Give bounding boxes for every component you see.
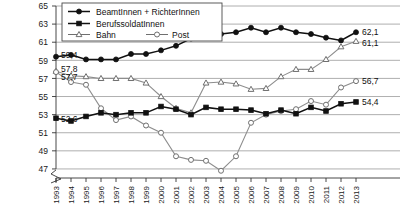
data-point-marker <box>189 112 194 117</box>
x-axis-tick-label: 1993 <box>52 185 61 203</box>
series-end-value-label: 61,1 <box>362 38 379 48</box>
series-end-value-label: 56,7 <box>362 76 379 86</box>
x-axis-tick-label: 2001 <box>172 185 181 203</box>
y-axis-tick-labels: 47495153555759616365 <box>39 1 49 174</box>
data-point-marker <box>99 57 104 62</box>
legend-item-label: Post <box>172 30 190 40</box>
data-point-marker <box>174 43 179 48</box>
x-axis-tick-label: 2005 <box>232 185 241 203</box>
data-point-marker <box>339 85 344 90</box>
data-point-marker <box>324 102 329 107</box>
data-point-marker <box>77 21 82 26</box>
series-start-value-label: 52,6 <box>61 114 78 124</box>
y-axis-tick-label: 65 <box>39 1 49 11</box>
x-axis-tick-labels: 1993199419951996199719981999200020012002… <box>52 185 361 203</box>
data-point-marker <box>234 30 239 35</box>
data-point-marker <box>204 158 209 163</box>
line-chart-svg: 47495153555759616365 1993199419951996199… <box>0 0 405 217</box>
data-point-marker <box>294 30 299 35</box>
data-point-marker <box>324 35 329 40</box>
y-axis-tick-label: 59 <box>39 56 49 66</box>
series-start-value-label: 59,4 <box>61 50 78 60</box>
x-axis-tick-label: 2004 <box>217 185 226 203</box>
data-point-marker <box>218 79 224 84</box>
x-axis-tick-label: 2002 <box>187 185 196 203</box>
data-point-marker <box>84 57 89 62</box>
x-axis-tick-label: 2003 <box>202 185 211 203</box>
x-axis-tick-label: 1998 <box>127 185 136 203</box>
x-axis-tick-label: 2012 <box>337 185 346 203</box>
data-point-marker <box>264 30 269 35</box>
x-axis-tick-label: 1997 <box>112 185 121 203</box>
data-point-marker <box>204 105 209 110</box>
x-axis-tick-label: 2010 <box>307 185 316 203</box>
data-point-marker <box>264 111 269 116</box>
data-point-marker <box>189 157 194 162</box>
series-start-labels: 59,457,857,752,6 <box>61 50 78 124</box>
data-point-marker <box>354 30 359 35</box>
x-axis-tick-label: 2011 <box>322 185 331 203</box>
data-point-marker <box>144 51 149 56</box>
data-point-marker <box>174 154 179 159</box>
chart-legend: BeamtInnen + RichterInnenBerufssoldatInn… <box>62 3 222 41</box>
y-axis-tick-label: 49 <box>39 146 49 156</box>
series-3 <box>53 38 359 115</box>
data-point-marker <box>99 106 104 111</box>
data-point-marker <box>159 48 164 53</box>
data-point-marker <box>84 82 89 87</box>
data-point-marker <box>219 168 224 173</box>
x-axis-ticks <box>56 178 356 182</box>
data-point-marker <box>309 99 314 104</box>
data-point-marker <box>174 107 179 112</box>
data-point-marker <box>84 114 89 119</box>
x-axis-tick-label: 1996 <box>97 185 106 203</box>
series-end-value-label: 62,1 <box>362 27 379 37</box>
data-point-marker <box>324 109 329 114</box>
data-point-marker <box>294 111 299 116</box>
x-axis-tick-label: 1995 <box>82 185 91 203</box>
data-point-marker <box>234 154 239 159</box>
data-point-marker <box>129 51 134 56</box>
data-point-marker <box>234 107 239 112</box>
data-point-marker <box>54 70 59 75</box>
series-end-labels: 62,161,156,754,4 <box>362 27 379 107</box>
data-point-marker <box>144 123 149 128</box>
data-point-marker <box>114 112 119 117</box>
y-axis-tick-label: 63 <box>39 19 49 29</box>
data-point-marker <box>155 32 160 37</box>
x-axis-tick-label: 2009 <box>292 185 301 203</box>
data-point-marker <box>279 25 284 30</box>
y-axis-tick-label: 53 <box>39 110 49 120</box>
chart-container: 47495153555759616365 1993199419951996199… <box>0 0 405 217</box>
y-axis-tick-label: 61 <box>39 37 49 47</box>
legend-item-label: BeamtInnen + RichterInnen <box>96 7 200 17</box>
y-axis-tick-label: 55 <box>39 92 49 102</box>
x-axis-tick-label: 2000 <box>157 185 166 203</box>
series-end-value-label: 54,4 <box>362 97 379 107</box>
data-point-marker <box>279 108 284 113</box>
x-axis-tick-label: 2006 <box>247 185 256 203</box>
x-axis-tick-label: 2013 <box>352 185 361 203</box>
series-line <box>56 72 356 171</box>
data-point-marker <box>159 104 164 109</box>
data-point-marker <box>77 9 82 14</box>
data-point-marker <box>309 105 314 110</box>
series-start-value-label: 57,7 <box>61 72 78 82</box>
data-point-marker <box>339 101 344 106</box>
data-point-marker <box>54 116 59 121</box>
x-axis-tick-label: 1994 <box>67 185 76 203</box>
data-point-marker <box>114 118 119 123</box>
data-point-marker <box>144 111 149 116</box>
data-point-marker <box>219 107 224 112</box>
data-point-marker <box>249 108 254 113</box>
data-point-marker <box>339 38 344 43</box>
y-axis-tick-label: 51 <box>39 128 49 138</box>
data-point-marker <box>294 107 299 112</box>
legend-item-label: Bahn <box>96 30 116 40</box>
y-axis-tick-label: 57 <box>39 74 49 84</box>
data-point-marker <box>309 32 314 37</box>
y-axis-tick-label: 47 <box>39 164 49 174</box>
legend-item-label: BerufssoldatInnen <box>96 19 165 29</box>
data-point-marker <box>129 111 134 116</box>
x-axis-tick-label: 2007 <box>262 185 271 203</box>
